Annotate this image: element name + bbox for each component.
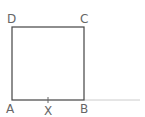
label-b: B	[80, 102, 88, 116]
label-c: C	[80, 12, 88, 26]
label-x: X	[44, 104, 52, 117]
square-abcd	[12, 27, 84, 100]
label-a: A	[6, 102, 15, 116]
label-d: D	[7, 12, 16, 26]
geometry-diagram: D C A X B	[0, 0, 145, 117]
